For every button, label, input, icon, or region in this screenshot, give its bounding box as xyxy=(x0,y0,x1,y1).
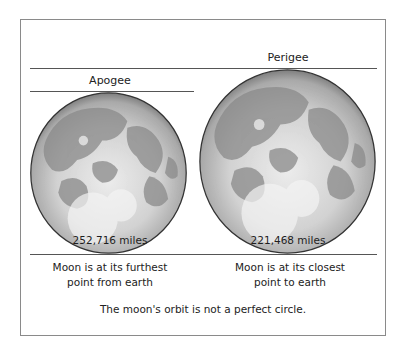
apogee-description-line-2: point from earth xyxy=(40,275,180,290)
perigee-description-line-1: Moon is at its closest xyxy=(220,260,360,275)
perigee-description: Moon is at its closest point to earth xyxy=(220,260,360,290)
perigee-distance: 221,468 miles xyxy=(238,234,338,246)
apogee-label: Apogee xyxy=(70,74,150,88)
apogee-distance: 252,716 miles xyxy=(60,234,160,246)
moon-icon xyxy=(199,69,376,254)
moon-icon xyxy=(30,92,187,254)
apogee-moon-image xyxy=(30,92,187,254)
earth-reference-line xyxy=(30,254,377,255)
apogee-description-line-1: Moon is at its furthest xyxy=(40,260,180,275)
apogee-description: Moon is at its furthest point from earth xyxy=(40,260,180,290)
perigee-description-line-2: point to earth xyxy=(220,275,360,290)
perigee-label: Perigee xyxy=(248,51,328,65)
diagram-caption: The moon's orbit is not a perfect circle… xyxy=(20,303,386,315)
perigee-moon-image xyxy=(199,69,376,254)
